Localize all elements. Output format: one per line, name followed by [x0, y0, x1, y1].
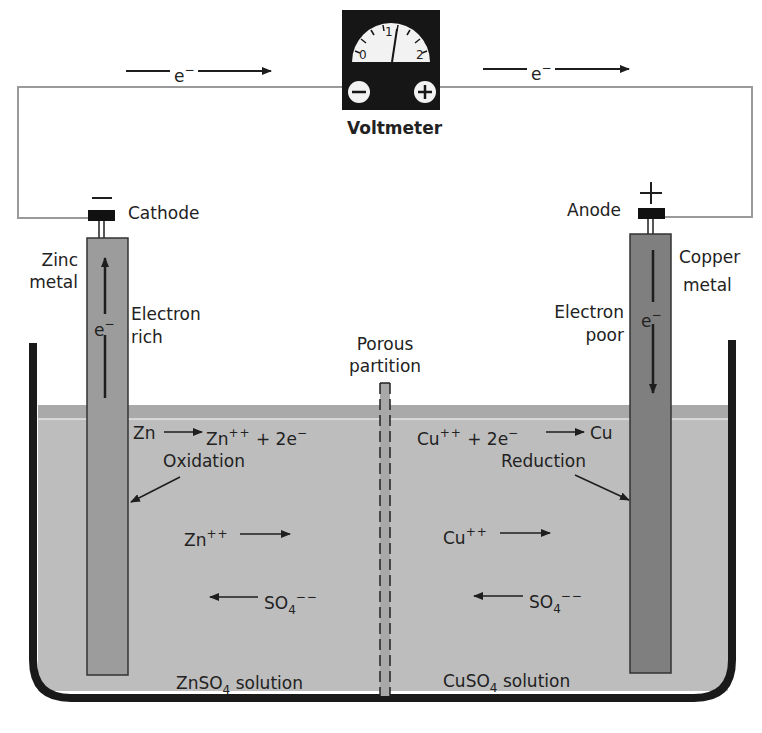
- voltmeter-label: Voltmeter: [347, 118, 442, 138]
- zn-side-sulfate-label: SO4−−: [264, 587, 318, 620]
- zinc-metal-label-line1: Zinc: [20, 250, 78, 270]
- reduction-label: Reduction: [501, 451, 586, 471]
- copper-metal-label-line1: Copper: [679, 247, 740, 267]
- cu-side-sulfate-label: SO4−−: [529, 586, 583, 619]
- voltmeter-scale-0: 0: [359, 45, 367, 65]
- zn-reaction-reactant: Zn: [133, 423, 155, 443]
- circuit-wire-left: [18, 87, 343, 218]
- cu-reaction-product: Cu: [590, 423, 613, 443]
- anode-label: Anode: [567, 200, 621, 220]
- anode-terminal: [638, 182, 665, 235]
- cu-reaction-reactants: Cu++ + 2e−: [417, 423, 519, 449]
- electron-poor-label-line1: Electron: [540, 302, 624, 322]
- electron-rich-label-line1: Electron: [131, 304, 201, 324]
- electron-rich-label-line2: rich: [131, 327, 163, 347]
- galvanic-cell-diagram: 0 1 2 Voltmeter e− e− Cathode Zinc metal…: [0, 0, 762, 733]
- cathode-label: Cathode: [128, 203, 199, 223]
- partition-label-line2: partition: [330, 356, 440, 376]
- znso4-solution-label: ZnSO4 solution: [176, 673, 303, 700]
- partition-label-line1: Porous: [330, 334, 440, 354]
- copper-electron-symbol: e−: [641, 305, 663, 331]
- copper-metal-label-line2: metal: [683, 275, 732, 295]
- circuit-wire-right: [437, 87, 752, 217]
- porous-partition: [380, 383, 390, 696]
- zinc-metal-label-line2: metal: [20, 272, 78, 292]
- electron-flow-label-right: e−: [531, 58, 553, 84]
- voltmeter-scale-1: 1: [385, 22, 393, 42]
- zn-reaction-products: Zn++ + 2e−: [206, 423, 308, 449]
- oxidation-label: Oxidation: [163, 451, 245, 471]
- cu-ion-label: Cu++: [443, 522, 488, 548]
- voltmeter-scale-2: 2: [416, 45, 424, 65]
- copper-electrode: [630, 234, 671, 673]
- electron-poor-label-line2: poor: [540, 325, 624, 345]
- zinc-electron-symbol: e−: [94, 314, 116, 340]
- cuso4-solution-label: CuSO4 solution: [443, 671, 570, 698]
- zn-ion-label: Zn++: [184, 524, 229, 550]
- electron-flow-label-left: e−: [174, 60, 196, 86]
- zinc-electrode: [87, 238, 128, 675]
- cathode-terminal: [88, 198, 115, 238]
